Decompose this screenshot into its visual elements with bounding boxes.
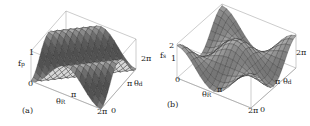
x-tick-end: 2π (97, 108, 107, 116)
y-tick-end: 2π (141, 55, 151, 63)
x-tick-mid: π (217, 86, 222, 94)
panel-b: 2 fs 1 0 θR π 2π 0 π θd 2π (b) (155, 0, 310, 126)
z-axis-label: fp (18, 60, 25, 68)
panel-label: (a) (22, 107, 33, 115)
x-tick-mid: π (71, 91, 76, 99)
y-axis-label: θd (134, 80, 143, 88)
z-tick-bottom: 0 (28, 80, 33, 88)
y-tick-end: 2π (296, 49, 306, 57)
figure: 1 fp 0 θR π 2π 0 π θd 2π (a) 2 fs 1 0 θR… (0, 0, 310, 126)
y-axis-label: θd (283, 78, 292, 86)
y-tick-start: 0 (260, 106, 265, 114)
panel-label: (b) (167, 101, 178, 109)
x-axis-label: θR (56, 98, 65, 106)
z-tick-mid: 1 (171, 55, 176, 63)
y-tick-mid: π (127, 80, 132, 88)
z-tick-bottom: 0 (175, 76, 180, 84)
y-tick-start: 0 (111, 107, 116, 115)
x-axis-label: θR (202, 91, 211, 99)
z-axis-label: fs (160, 52, 166, 60)
z-tick-top: 1 (29, 49, 34, 57)
y-tick-mid: π (275, 78, 280, 86)
panel-a: 1 fp 0 θR π 2π 0 π θd 2π (a) (0, 0, 155, 126)
x-tick-end: 2π (248, 107, 258, 115)
z-tick-top: 2 (169, 42, 174, 50)
